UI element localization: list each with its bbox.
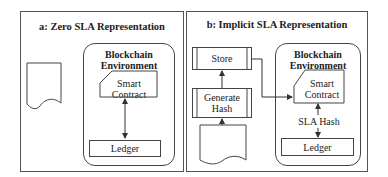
panel-a-sla-document-icon: [27, 63, 61, 109]
panel-b-sla-document-icon: [200, 125, 246, 164]
diagram-connectors: [0, 0, 388, 177]
panel-a-smart-contract-shape: [100, 71, 157, 97]
panel-b-smart-contract-shape: [294, 70, 344, 103]
